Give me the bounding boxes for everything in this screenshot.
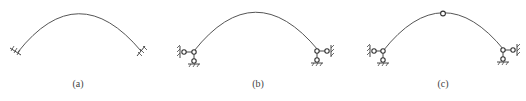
arch-c — [383, 13, 504, 51]
figure-label-a: (a) — [72, 78, 83, 89]
link-support-right-icon — [311, 45, 334, 66]
arch-a — [18, 14, 141, 52]
arch-b — [194, 12, 318, 51]
link-support-right-icon — [497, 44, 520, 65]
figure-label-b: (b) — [252, 78, 264, 89]
figure-c — [367, 11, 520, 66]
figure-a — [10, 14, 147, 56]
figure-label-c: (c) — [437, 78, 448, 89]
figure-b — [177, 12, 334, 67]
fixed-support-left-icon — [10, 46, 21, 55]
crown-hinge-icon — [441, 11, 446, 16]
